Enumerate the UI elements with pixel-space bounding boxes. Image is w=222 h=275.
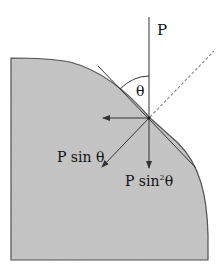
label-P: P bbox=[157, 21, 167, 39]
dashed-normal-line bbox=[150, 51, 214, 117]
angle-arc-theta bbox=[120, 76, 149, 89]
label-P-sin2-theta: P sin2θ bbox=[125, 173, 173, 189]
contact-point bbox=[147, 116, 150, 119]
label-theta: θ bbox=[136, 83, 144, 99]
label-P-sin-theta: P sin θ bbox=[57, 149, 104, 165]
force-diagram: P θ P sin θ P sin2θ bbox=[0, 0, 222, 275]
